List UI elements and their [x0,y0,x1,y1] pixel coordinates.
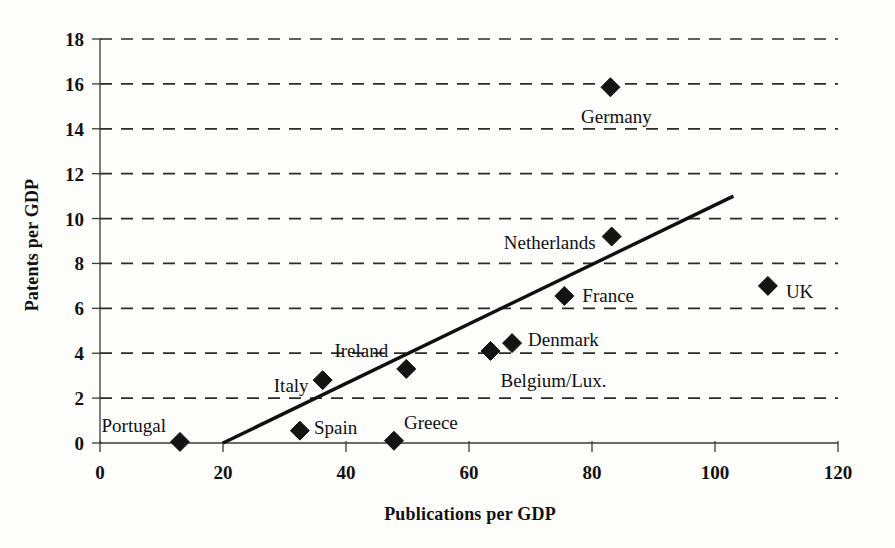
x-tick-label-0: 0 [95,462,105,483]
data-marker-denmark [503,334,522,353]
x-tick-label-40: 40 [337,462,356,483]
data-label-portugal: Portugal [102,415,166,436]
chart-page: 024681012141618 020406080100120 Portugal… [0,0,895,548]
data-marker-belgium-lux [481,341,500,360]
x-axis-title: Publications per GDP [384,504,556,524]
data-label-netherlands: Netherlands [504,232,596,253]
data-label-italy: Italy [274,375,309,396]
y-tick-label-18: 18 [65,29,84,50]
y-tick-label-14: 14 [65,119,85,140]
trendline-group [223,196,733,443]
x-tick-label-120: 120 [824,462,853,483]
data-marker-italy [313,371,332,390]
trendline [223,196,733,443]
y-tick-label-2: 2 [75,388,85,409]
y-tick-label-10: 10 [65,209,84,230]
x-tick-label-100: 100 [701,462,730,483]
data-marker-uk [758,276,777,295]
data-label-germany: Germany [581,106,652,127]
data-marker-germany [601,78,620,97]
y-tick-label-8: 8 [75,253,85,274]
data-label-denmark: Denmark [528,329,599,350]
y-axis: 024681012141618 [65,29,102,454]
data-marker-greece [384,431,403,450]
data-marker-portugal [170,432,189,451]
x-tick-label-60: 60 [460,462,479,483]
data-markers [170,78,777,452]
y-tick-label-0: 0 [75,433,85,454]
data-label-ireland: Ireland [334,340,388,361]
data-label-belgium-lux: Belgium/Lux. [501,370,607,391]
y-tick-label-6: 6 [75,298,85,319]
scatter-plot: 024681012141618 020406080100120 Portugal… [0,0,895,548]
y-tick-label-4: 4 [75,343,85,364]
data-label-spain: Spain [314,417,358,438]
point-labels: PortugalSpainGreeceItalyIrelandBelgium/L… [102,106,814,437]
data-marker-ireland [397,359,416,378]
x-axis: 020406080100120 [95,441,852,483]
data-label-uk: UK [786,281,814,302]
data-marker-netherlands [602,227,621,246]
gridlines [100,39,838,398]
data-marker-spain [290,421,309,440]
data-label-france: France [582,285,634,306]
y-tick-label-16: 16 [65,74,84,95]
x-tick-label-80: 80 [583,462,602,483]
y-axis-title: Patents per GDP [22,179,42,312]
x-tick-label-20: 20 [214,462,233,483]
data-label-greece: Greece [404,412,458,433]
data-marker-france [555,286,574,305]
y-tick-label-12: 12 [65,164,84,185]
